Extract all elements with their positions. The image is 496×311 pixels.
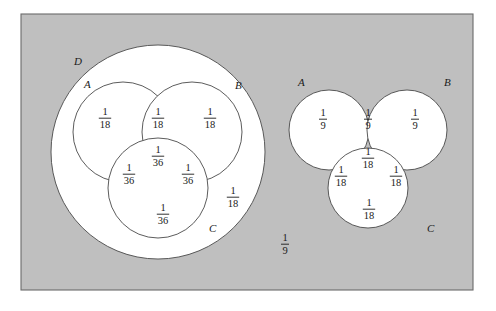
fraction-denominator: 9 [282,245,287,256]
fraction-numerator: 1 [230,185,235,196]
fraction-denominator: 18 [363,159,374,170]
fraction-denominator: 18 [364,210,375,221]
fraction-numerator: 1 [102,106,107,117]
set-label-b-left: B [235,79,242,91]
venn-diagram-canvas: D A B C 118118118136136136136118 A B C 1… [0,0,496,311]
fraction-denominator: 18 [336,177,347,188]
fraction-numerator: 1 [393,164,398,175]
fraction-denominator: 18 [228,198,239,209]
fraction-denominator: 9 [365,120,370,131]
fraction-denominator: 36 [183,175,194,186]
venn-diagram-figure: D A B C 118118118136136136136118 A B C 1… [0,0,496,311]
set-label-b-right: B [444,76,451,88]
fraction-numerator: 1 [282,232,287,243]
set-label-c-right: C [427,222,435,234]
fraction-numerator: 1 [155,106,160,117]
fraction-numerator: 1 [365,107,370,118]
fraction-numerator: 1 [366,197,371,208]
set-label-c-left: C [209,222,217,234]
fraction-denominator: 36 [124,175,135,186]
fraction-numerator: 1 [365,146,370,157]
fraction-denominator: 18 [100,119,111,130]
fraction-numerator: 1 [160,202,165,213]
fraction-denominator: 18 [391,177,402,188]
fraction-denominator: 9 [320,120,325,131]
fraction-denominator: 36 [158,215,169,226]
fraction-numerator: 1 [338,164,343,175]
fraction-denominator: 36 [153,157,164,168]
fraction-numerator: 1 [320,107,325,118]
set-label-a-left: A [83,78,91,90]
fraction-denominator: 18 [205,119,216,130]
fraction-denominator: 18 [153,119,164,130]
fraction-numerator: 1 [207,106,212,117]
set-label-d: D [73,55,82,67]
fraction-numerator: 1 [126,162,131,173]
left-venn-diagram: D A B C 118118118136136136136118 [51,45,265,259]
fraction-numerator: 1 [185,162,190,173]
set-label-a-right: A [297,76,305,88]
fraction-numerator: 1 [412,107,417,118]
fraction-numerator: 1 [155,144,160,155]
fraction-denominator: 9 [412,120,417,131]
